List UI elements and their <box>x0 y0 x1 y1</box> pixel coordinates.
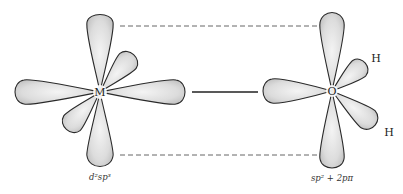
oxygen-symbol: O <box>327 85 336 98</box>
hydrogen-label-lower: H <box>384 126 394 139</box>
oxygen-lobe-left <box>263 79 332 104</box>
orbital-diagram: M O H H d²sp³ sp² + 2pπ <box>0 0 403 194</box>
oxygen-orbitals <box>263 13 382 169</box>
oxygen-hybridization-label: sp² + 2pπ <box>311 173 354 183</box>
hydrogen-label-upper: H <box>371 52 381 65</box>
metal-hybridization-label: d²sp³ <box>89 172 112 182</box>
metal-symbol: M <box>94 86 105 99</box>
